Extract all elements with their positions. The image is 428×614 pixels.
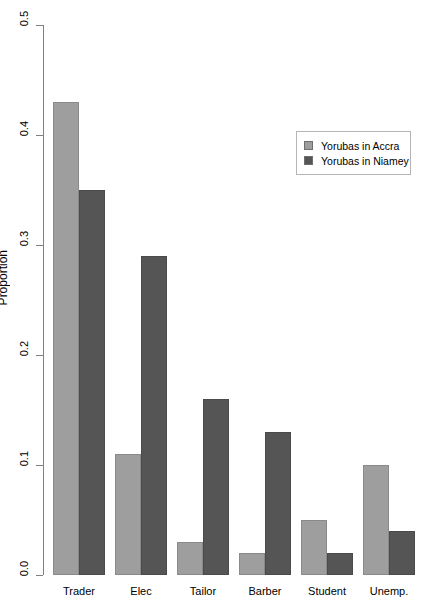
chart-legend: Yorubas in Accra Yorubas in Niamey bbox=[296, 131, 411, 175]
bar bbox=[79, 190, 105, 575]
bar bbox=[177, 542, 203, 575]
legend-swatch-icon bbox=[304, 156, 313, 165]
x-axis-category-label: Elec bbox=[130, 585, 151, 597]
legend-swatch-icon bbox=[304, 141, 313, 150]
x-axis-category-label: Barber bbox=[248, 585, 281, 597]
bar bbox=[363, 465, 389, 575]
bar-chart: 0.00.10.20.30.40.5 Proportion TraderElec… bbox=[0, 0, 428, 614]
x-axis-category-label: Trader bbox=[63, 585, 95, 597]
bars-layer bbox=[0, 0, 428, 614]
bar bbox=[53, 102, 79, 575]
x-axis-category-label: Tailor bbox=[190, 585, 216, 597]
legend-label: Yorubas in Niamey bbox=[321, 155, 409, 167]
bar bbox=[301, 520, 327, 575]
bar bbox=[265, 432, 291, 575]
bar bbox=[141, 256, 167, 575]
legend-label: Yorubas in Accra bbox=[321, 140, 399, 152]
bar bbox=[203, 399, 229, 575]
legend-item: Yorubas in Accra bbox=[304, 138, 403, 153]
bar bbox=[327, 553, 353, 575]
bar bbox=[389, 531, 415, 575]
bar bbox=[239, 553, 265, 575]
x-axis-category-label: Unemp. bbox=[370, 585, 409, 597]
legend-item: Yorubas in Niamey bbox=[304, 153, 403, 168]
x-axis-category-label: Student bbox=[308, 585, 346, 597]
bar bbox=[115, 454, 141, 575]
